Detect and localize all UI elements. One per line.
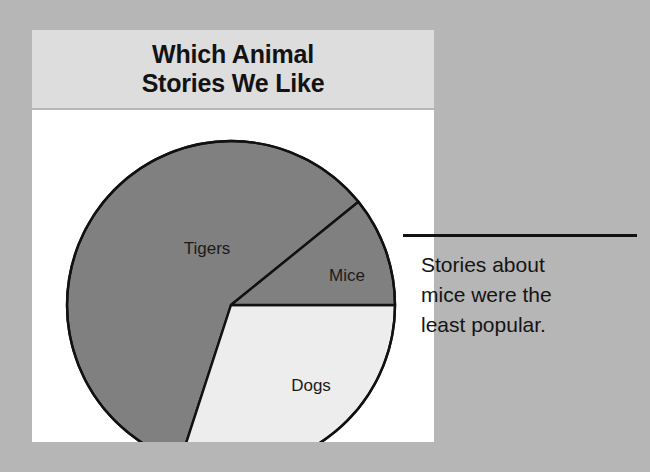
pie-chart-panel: Tigers Dogs Mice [32,110,434,442]
page-title: Which Animal Stories We Like [142,40,325,98]
callout-text: Stories about mice were the least popula… [421,250,641,339]
pie-chart: Tigers Dogs Mice [32,110,434,442]
chart-card: Which Animal Stories We Like Tigers Dogs… [32,30,434,442]
pie-label-tigers: Tigers [184,239,231,258]
pie-label-dogs: Dogs [291,376,331,395]
pie-label-mice: Mice [329,266,365,285]
callout-leader-line [403,234,637,237]
chart-page: Which Animal Stories We Like Tigers Dogs… [0,0,650,472]
title-banner: Which Animal Stories We Like [32,30,434,108]
